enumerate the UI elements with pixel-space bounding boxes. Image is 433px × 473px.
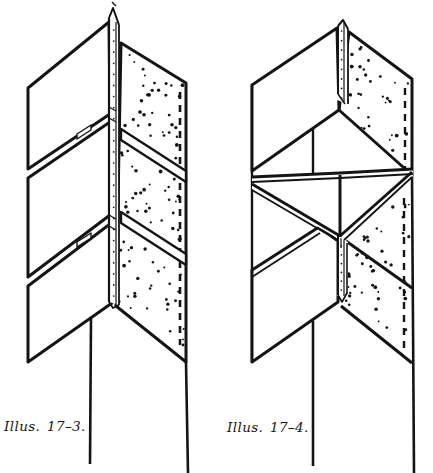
- panel-upper-left: [252, 28, 339, 175]
- book-illustration-plate: Illus. 17–3. Illus. 17–4.: [0, 0, 433, 473]
- stippled-wall: [116, 43, 186, 362]
- corner-batten: [109, 2, 119, 308]
- panel-lower-left: [252, 227, 338, 362]
- corner-batten-lower: [337, 234, 348, 302]
- stippled-wall-upper: [339, 32, 412, 175]
- drawing-17-4: [252, 20, 414, 473]
- figure-caption-17-4: Illus. 17–4.: [227, 419, 309, 435]
- paneling-boards: [28, 22, 112, 362]
- line-art-canvas: [0, 0, 433, 473]
- drawing-17-3: [28, 2, 188, 473]
- corner-batten-upper: [337, 20, 348, 104]
- figure-caption-17-3: Illus. 17–3.: [4, 418, 86, 434]
- corner-shelf: [252, 169, 413, 241]
